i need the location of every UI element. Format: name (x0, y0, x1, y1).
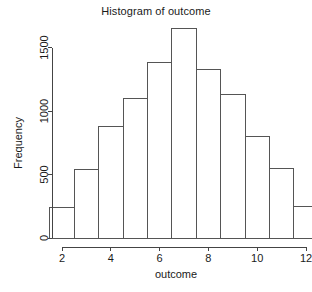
y-axis-tick-label: 1000 (38, 99, 50, 123)
histogram-bars (50, 28, 312, 238)
histogram-bar (221, 94, 245, 238)
histogram-bar (50, 208, 74, 238)
histogram-bar (147, 63, 171, 238)
histogram-bar (294, 206, 312, 238)
histogram-bar (269, 168, 293, 238)
x-axis-tick-label: 6 (157, 252, 163, 264)
y-axis-title: Frequency (12, 117, 24, 169)
histogram-bar (172, 28, 196, 238)
x-axis-tick-label: 8 (205, 252, 211, 264)
histogram-bar (123, 98, 147, 238)
histogram-svg: 05001000150024681012outcomeFrequency (0, 0, 312, 292)
histogram-bar (74, 169, 98, 238)
y-axis-tick-label: 0 (38, 235, 50, 241)
x-axis-tick-label: 10 (251, 252, 263, 264)
y-axis-tick-label: 1500 (38, 35, 50, 59)
x-axis-title: outcome (155, 268, 197, 280)
histogram-bar (245, 136, 269, 238)
x-axis-tick-label: 12 (300, 252, 312, 264)
y-axis-tick-label: 500 (38, 165, 50, 183)
histogram-plot-panel: Histogram of outcome 0500100015002468101… (0, 0, 312, 292)
histogram-bar (196, 69, 220, 238)
histogram-bar (99, 126, 123, 238)
x-axis-tick-label: 4 (108, 252, 114, 264)
x-axis-tick-label: 2 (59, 252, 65, 264)
